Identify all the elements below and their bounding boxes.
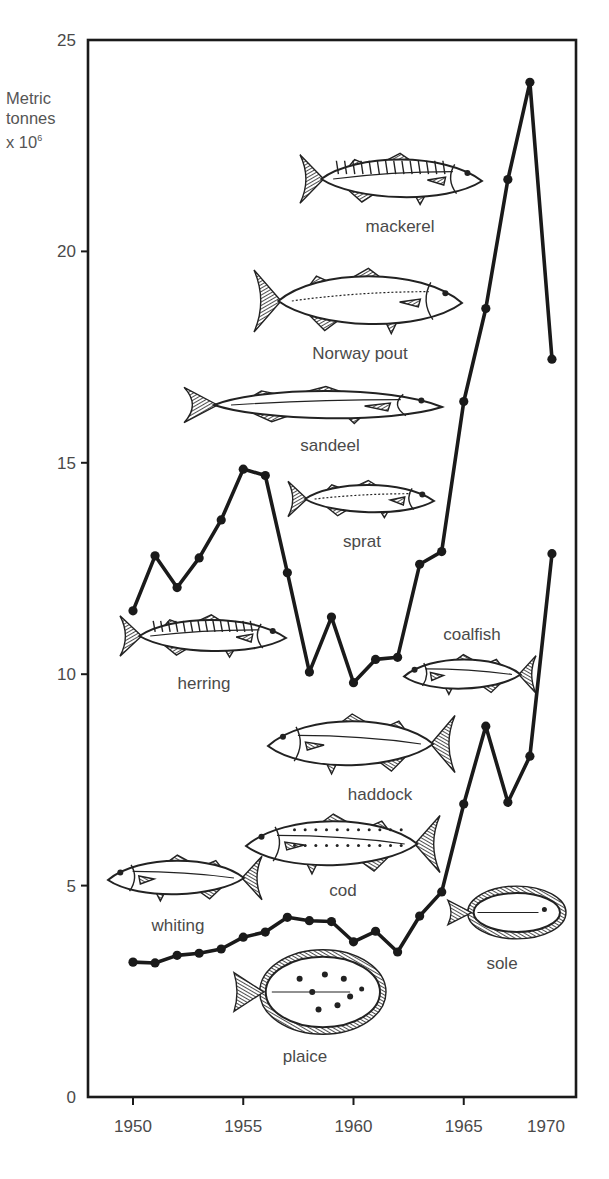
mackerel-label: mackerel: [366, 217, 435, 236]
sole-label: sole: [486, 954, 517, 973]
norway-pout-illustration: Norway pout: [254, 268, 462, 363]
data-point: [283, 913, 292, 922]
coalfish-label: coalfish: [443, 625, 501, 644]
data-point: [261, 928, 270, 937]
coalfish-illustration: coalfish: [404, 625, 536, 694]
haddock-label: haddock: [348, 785, 413, 804]
sole-icon: [448, 886, 566, 939]
data-point: [349, 678, 358, 687]
whiting-icon: [108, 855, 262, 901]
data-point: [503, 175, 512, 184]
y-tick-label: 25: [57, 31, 76, 50]
y-tick-label: 5: [67, 877, 76, 896]
data-point: [195, 553, 204, 562]
herring-icon: [120, 615, 286, 657]
data-point: [150, 551, 159, 560]
data-point: [437, 887, 446, 896]
data-point: [547, 549, 556, 558]
y-tick-label: 10: [57, 665, 76, 684]
data-point: [327, 613, 336, 622]
sandeel-icon: [184, 386, 442, 423]
y-tick-label: 0: [67, 1088, 76, 1107]
fish-illustrations: mackerelNorway poutsandeelspratherringco…: [108, 153, 566, 1066]
herring-illustration: herring: [120, 615, 286, 693]
y-tick-label: 20: [57, 242, 76, 261]
data-point: [150, 958, 159, 967]
data-point: [327, 917, 336, 926]
x-tick-label: 1970: [527, 1117, 565, 1136]
data-point: [239, 933, 248, 942]
x-tick-label: 1950: [114, 1117, 152, 1136]
x-tick-label: 1965: [445, 1117, 483, 1136]
data-point: [415, 560, 424, 569]
data-point: [371, 927, 380, 936]
herring-label: herring: [178, 674, 231, 693]
exponent: 6: [37, 133, 42, 143]
haddock-illustration: haddock: [268, 714, 455, 804]
data-point: [459, 397, 468, 406]
data-point: [217, 944, 226, 953]
cod-illustration: cod: [246, 814, 440, 900]
mackerel-illustration: mackerel: [300, 153, 482, 236]
y-axis-label-line-2: tonnes: [6, 108, 56, 128]
data-point: [217, 515, 226, 524]
y-tick-label: 15: [57, 454, 76, 473]
sprat-illustration: sprat: [288, 480, 434, 551]
data-point: [128, 606, 137, 615]
data-point: [173, 583, 182, 592]
data-point: [393, 653, 402, 662]
data-point: [525, 78, 534, 87]
y-axis-label-line-3: x 106: [6, 128, 56, 152]
data-point: [459, 799, 468, 808]
data-point: [195, 949, 204, 958]
data-point: [481, 722, 490, 731]
cod-icon: [246, 814, 440, 874]
data-point: [261, 471, 270, 480]
catch-chart: mackerelNorway poutsandeelspratherringco…: [0, 0, 609, 1179]
data-point: [503, 798, 512, 807]
whiting-label: whiting: [151, 916, 205, 935]
plaice-icon: [234, 950, 386, 1034]
data-point: [371, 655, 380, 664]
data-point: [173, 951, 182, 960]
sandeel-illustration: sandeel: [184, 386, 442, 455]
mackerel-icon: [300, 153, 482, 204]
data-point: [305, 667, 314, 676]
data-point: [415, 911, 424, 920]
whiting-illustration: whiting: [108, 855, 262, 935]
data-point: [393, 947, 402, 956]
data-point: [437, 547, 446, 556]
norway-pout-label: Norway pout: [312, 344, 408, 363]
data-point: [525, 752, 534, 761]
data-point: [547, 355, 556, 364]
data-point: [283, 568, 292, 577]
x-tick-label: 1960: [335, 1117, 373, 1136]
coalfish-icon: [404, 655, 536, 695]
plaice-label: plaice: [283, 1047, 327, 1066]
sprat-icon: [288, 480, 434, 517]
cod-label: cod: [329, 881, 356, 900]
norway-pout-icon: [254, 268, 462, 333]
data-point: [349, 937, 358, 946]
sandeel-label: sandeel: [300, 436, 360, 455]
x-tick-label: 1955: [224, 1117, 262, 1136]
data-point: [128, 958, 137, 967]
data-point: [239, 465, 248, 474]
haddock-icon: [268, 714, 455, 774]
y-axis-label-line-1: Metric: [6, 88, 56, 108]
sole-illustration: sole: [448, 886, 566, 973]
data-point: [305, 916, 314, 925]
plaice-illustration: plaice: [234, 950, 386, 1066]
sprat-label: sprat: [343, 532, 381, 551]
data-point: [481, 304, 490, 313]
y-axis-label: Metric tonnes x 106: [6, 88, 56, 152]
